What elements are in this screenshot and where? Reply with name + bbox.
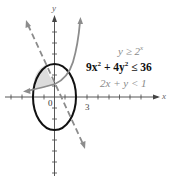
inequality-ellipse-part1: 9x [86,61,98,73]
x-axis-label: x [162,91,166,101]
curve-arrow-left-icon [23,88,31,94]
origin-label: 0 [48,98,53,108]
x-axis [5,95,158,100]
x-axis-arrow-icon [153,95,160,100]
line-arrow-top-icon [26,20,32,28]
inequality-linear: 2x + y < 1 [100,77,147,89]
inequality-ellipse: 9x2 + 4y2 ≤ 36 [86,60,152,73]
curve-arrow-top-icon [78,17,84,24]
y-axis-arrow-icon [52,15,57,22]
inequality-exponential-base: y ≥ 2 [118,45,140,57]
y-axis-label: y [52,3,56,13]
inequality-exponential: y ≥ 2x [118,44,143,57]
inequality-exponential-exponent: x [140,44,143,52]
graph-canvas [0,0,172,183]
line-arrow-bottom-icon [80,141,86,149]
inequality-ellipse-part2: + 4y [101,61,125,73]
x-tick-label-3: 3 [85,102,90,112]
inequality-ellipse-part3: ≤ 36 [128,61,152,73]
